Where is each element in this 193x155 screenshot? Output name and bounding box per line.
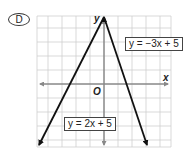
x-axis-label: x (163, 72, 169, 83)
line-label-negative-slope: y = −3x + 5 (125, 37, 183, 51)
y-axis-label: y (94, 13, 100, 24)
line-label-positive-slope: y = 2x + 5 (64, 117, 116, 131)
origin-label: O (93, 86, 101, 97)
